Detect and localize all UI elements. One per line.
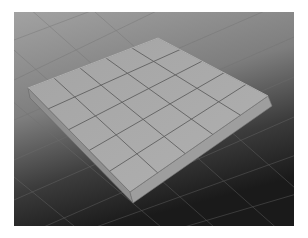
3d-viewport[interactable] (14, 12, 294, 226)
viewport-canvas[interactable] (14, 12, 294, 226)
